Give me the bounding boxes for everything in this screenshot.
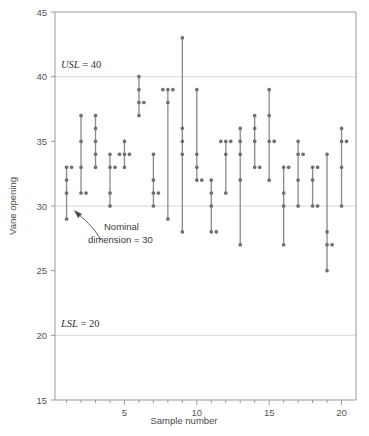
x-tick-label-5: 5 <box>122 407 127 418</box>
data-point-s14-v36 <box>253 127 257 131</box>
data-point-s5-v34 <box>128 152 132 156</box>
data-point-s20-v30 <box>340 204 344 208</box>
lsl-label: LSL = 20 <box>60 318 100 329</box>
data-point-s13-v27 <box>238 243 242 247</box>
chart-canvas: 15202530354045 5101520 Nominal dimension… <box>0 0 369 436</box>
data-point-s17-v35 <box>296 140 300 144</box>
data-point-s4-v33 <box>108 165 112 169</box>
y-tick-label-45: 45 <box>36 7 47 18</box>
data-point-s15-v35 <box>267 140 271 144</box>
x-tick-marks <box>67 400 342 405</box>
data-point-s5-v33 <box>123 165 127 169</box>
y-tick-labels: 15202530354045 <box>36 7 47 406</box>
data-point-s11-v32 <box>209 178 213 182</box>
data-point-s10-v33 <box>195 165 199 169</box>
data-point-s11-v30 <box>209 204 213 208</box>
data-point-s12-v35 <box>219 140 223 144</box>
data-point-s17-v30 <box>296 204 300 208</box>
data-point-s7-v32 <box>152 178 156 182</box>
data-point-s5-v34 <box>118 152 122 156</box>
data-point-s14-v33 <box>258 165 262 169</box>
data-point-s3-v33 <box>94 165 98 169</box>
data-point-s12-v35 <box>224 140 228 144</box>
data-point-s16-v27 <box>282 243 286 247</box>
data-point-s8-v39 <box>171 88 175 92</box>
y-tick-label-35: 35 <box>36 136 47 147</box>
data-point-s6-v38 <box>142 101 146 105</box>
data-point-s6-v40 <box>137 75 141 79</box>
data-point-s3-v35 <box>94 140 98 144</box>
data-point-s12-v31 <box>224 191 228 195</box>
y-tick-label-15: 15 <box>36 395 47 406</box>
data-point-s5-v34 <box>123 152 127 156</box>
data-point-s17-v34 <box>301 152 305 156</box>
data-point-s2-v31 <box>79 191 83 195</box>
data-point-s19-v27 <box>330 243 334 247</box>
data-point-s16-v33 <box>287 165 291 169</box>
data-point-s4-v31 <box>108 191 112 195</box>
data-point-s10-v32 <box>195 178 199 182</box>
nominal-annotation-line2: dimension = 30 <box>88 234 153 245</box>
vane-opening-control-chart: 15202530354045 5101520 Nominal dimension… <box>0 0 369 436</box>
data-point-s18-v32 <box>311 178 315 182</box>
data-point-s10-v39 <box>195 88 199 92</box>
data-point-s13-v32 <box>238 178 242 182</box>
data-point-s20-v33 <box>340 165 344 169</box>
data-point-s20-v35 <box>340 140 344 144</box>
data-point-s4-v30 <box>108 204 112 208</box>
data-point-s1-v32 <box>65 178 69 182</box>
data-point-s18-v30 <box>316 204 320 208</box>
data-point-s7-v31 <box>152 191 156 195</box>
data-point-s20-v35 <box>345 140 349 144</box>
usl-label: USL = 40 <box>61 59 101 70</box>
data-point-s9-v43 <box>181 36 185 40</box>
data-point-s14-v35 <box>253 140 257 144</box>
data-point-s19-v25 <box>325 269 329 273</box>
lsl-label-abbrev: LSL <box>60 318 78 329</box>
data-point-s12-v34 <box>224 152 228 156</box>
data-point-s1-v29 <box>65 217 69 221</box>
data-point-s4-v34 <box>108 152 112 156</box>
data-point-s8-v39 <box>166 88 170 92</box>
data-point-s13-v36 <box>238 127 242 131</box>
data-point-s16-v30 <box>282 204 286 208</box>
usl-label-abbrev: USL <box>61 59 80 70</box>
nominal-annotation-line1: Nominal <box>104 221 139 232</box>
data-point-s19-v27 <box>325 243 329 247</box>
lsl-label-value: = 20 <box>78 318 100 329</box>
data-point-s2-v33 <box>79 165 83 169</box>
data-point-s7-v30 <box>152 204 156 208</box>
data-point-s19-v34 <box>325 152 329 156</box>
data-point-s1-v33 <box>65 165 69 169</box>
data-point-s18-v30 <box>311 204 315 208</box>
data-point-s12-v35 <box>229 140 233 144</box>
data-point-s7-v31 <box>157 191 161 195</box>
data-point-s11-v28 <box>209 230 213 234</box>
usl-label-value: = 40 <box>80 59 102 70</box>
y-tick-label-25: 25 <box>36 265 47 276</box>
data-point-s2-v31 <box>84 191 88 195</box>
data-point-s19-v28 <box>325 230 329 234</box>
data-point-s11-v31 <box>209 191 213 195</box>
x-tick-label-15: 15 <box>264 407 275 418</box>
data-point-s3-v37 <box>94 114 98 118</box>
data-point-s6-v37 <box>137 114 141 118</box>
y-tick-label-40: 40 <box>36 71 47 82</box>
data-point-s20-v36 <box>340 127 344 131</box>
data-point-s9-v34 <box>181 152 185 156</box>
data-point-s10-v32 <box>200 178 204 182</box>
data-point-s8-v29 <box>166 217 170 221</box>
y-tick-marks <box>51 12 55 400</box>
data-point-s9-v35 <box>181 140 185 144</box>
data-point-s15-v35 <box>272 140 276 144</box>
data-point-s18-v33 <box>311 165 315 169</box>
data-point-s13-v35 <box>238 140 242 144</box>
y-tick-label-30: 30 <box>36 201 47 212</box>
data-point-s1-v33 <box>70 165 74 169</box>
data-point-s17-v34 <box>296 152 300 156</box>
data-point-s15-v37 <box>267 114 271 118</box>
data-point-s15-v39 <box>267 88 271 92</box>
data-point-s8-v38 <box>166 101 170 105</box>
data-point-s7-v34 <box>152 152 156 156</box>
data-point-s16-v33 <box>282 165 286 169</box>
